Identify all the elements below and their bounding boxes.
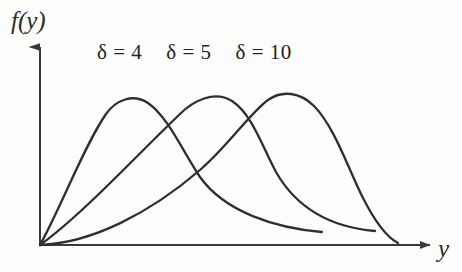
legend-item-delta-4: δ = 4 [97,42,142,63]
plot-canvas [0,0,462,272]
curve-delta-10 [40,94,398,245]
legend-item-delta-5: δ = 5 [166,42,211,63]
y-axis-label: f(y) [11,8,46,33]
legend: δ = 4 δ = 5 δ = 10 [97,42,292,63]
x-axis-label: y [438,236,449,261]
legend-item-delta-10: δ = 10 [236,42,292,63]
curve-delta-4 [40,98,322,245]
figure-container: f(y) y δ = 4 δ = 5 δ = 10 [0,0,462,272]
